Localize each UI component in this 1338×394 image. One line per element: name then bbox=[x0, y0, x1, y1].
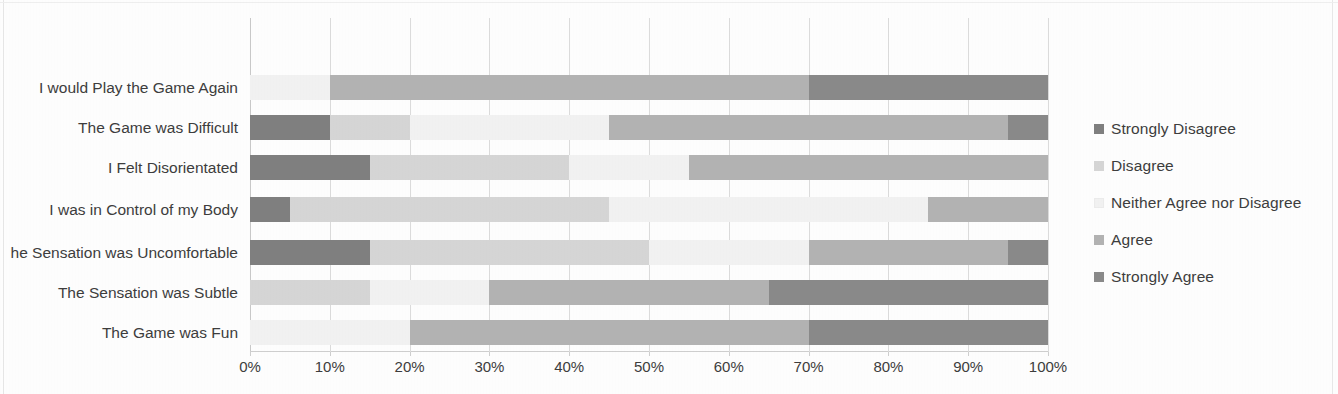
legend-swatch-icon bbox=[1094, 161, 1104, 171]
y-axis-category-label: I was in Control of my Body bbox=[49, 197, 238, 222]
bar-segment bbox=[250, 197, 290, 222]
legend-label: Strongly Disagree bbox=[1111, 120, 1236, 138]
y-axis-category-label: he Sensation was Uncomfortable bbox=[11, 240, 238, 265]
x-axis-tick-label: 50% bbox=[609, 358, 689, 375]
x-axis-tick-label: 30% bbox=[449, 358, 529, 375]
legend-label: Agree bbox=[1111, 231, 1153, 249]
gridline bbox=[1048, 18, 1049, 352]
y-axis-category-label: The Sensation was Subtle bbox=[58, 280, 238, 305]
x-axis-tick-label: 70% bbox=[769, 358, 849, 375]
legend-swatch-icon bbox=[1094, 198, 1104, 208]
bar-segment bbox=[250, 240, 370, 265]
bar-segment bbox=[250, 320, 410, 345]
bar-row bbox=[250, 280, 1048, 305]
x-axis-tick-label: 0% bbox=[210, 358, 290, 375]
legend-item[interactable]: Strongly Agree bbox=[1094, 258, 1338, 295]
tick-mark bbox=[649, 352, 650, 356]
legend-swatch-icon bbox=[1094, 124, 1104, 134]
plot-area bbox=[250, 18, 1048, 352]
legend-label: Disagree bbox=[1111, 157, 1174, 175]
bar-segment bbox=[250, 115, 330, 140]
bar-segment bbox=[609, 197, 928, 222]
bar-segment bbox=[410, 115, 610, 140]
x-axis-tick-label: 80% bbox=[848, 358, 928, 375]
tick-mark bbox=[729, 352, 730, 356]
bar-segment bbox=[809, 320, 1048, 345]
bar-segment bbox=[809, 240, 1009, 265]
bar-segment bbox=[809, 75, 1048, 100]
tick-mark bbox=[968, 352, 969, 356]
bar-segment bbox=[689, 155, 1048, 180]
legend-swatch-icon bbox=[1094, 272, 1104, 282]
tick-mark bbox=[888, 352, 889, 356]
x-axis-tick-label: 10% bbox=[290, 358, 370, 375]
tick-mark bbox=[1048, 352, 1049, 356]
x-axis-tick-label: 100% bbox=[1008, 358, 1088, 375]
bar-segment bbox=[410, 320, 809, 345]
y-axis-category-label: The Game was Difficult bbox=[78, 115, 238, 140]
tick-mark bbox=[809, 352, 810, 356]
bar-row bbox=[250, 197, 1048, 222]
bar-segment bbox=[1008, 115, 1048, 140]
bar-segment bbox=[330, 115, 410, 140]
bar-segment bbox=[569, 155, 689, 180]
x-axis-tick-label: 40% bbox=[529, 358, 609, 375]
y-axis-category-label: I would Play the Game Again bbox=[39, 75, 238, 100]
bar-segment bbox=[370, 155, 570, 180]
legend-label: Strongly Agree bbox=[1111, 268, 1214, 286]
bar-segment bbox=[250, 280, 370, 305]
bar-segment bbox=[290, 197, 609, 222]
x-axis-tick-label: 90% bbox=[928, 358, 1008, 375]
legend-item[interactable]: Disagree bbox=[1094, 147, 1338, 184]
bar-row bbox=[250, 320, 1048, 345]
bar-segment bbox=[370, 240, 649, 265]
bar-segment bbox=[250, 155, 370, 180]
bar-segment bbox=[370, 280, 490, 305]
bar-segment bbox=[250, 75, 330, 100]
bar-segment bbox=[609, 115, 1008, 140]
stacked-bar-chart: I would Play the Game AgainThe Game was … bbox=[0, 0, 1338, 394]
y-axis-category-label: I Felt Disorientated bbox=[108, 155, 238, 180]
legend-item[interactable]: Neither Agree nor Disagree bbox=[1094, 184, 1338, 221]
x-axis-tick-label: 20% bbox=[370, 358, 450, 375]
bar-row bbox=[250, 75, 1048, 100]
bar-segment bbox=[489, 280, 768, 305]
x-axis-tick-label: 60% bbox=[689, 358, 769, 375]
bar-row bbox=[250, 115, 1048, 140]
bar-segment bbox=[928, 197, 1048, 222]
bar-segment bbox=[330, 75, 809, 100]
bar-segment bbox=[769, 280, 1048, 305]
legend-label: Neither Agree nor Disagree bbox=[1111, 194, 1301, 212]
legend-swatch-icon bbox=[1094, 235, 1104, 245]
tick-mark bbox=[410, 352, 411, 356]
bar-segment bbox=[1008, 240, 1048, 265]
legend-item[interactable]: Agree bbox=[1094, 221, 1338, 258]
tick-mark bbox=[250, 352, 251, 356]
bar-segment bbox=[649, 240, 809, 265]
chart-page: I would Play the Game AgainThe Game was … bbox=[0, 0, 1338, 394]
tick-mark bbox=[330, 352, 331, 356]
chart-legend: Strongly DisagreeDisagreeNeither Agree n… bbox=[1094, 110, 1338, 295]
tick-mark bbox=[569, 352, 570, 356]
y-axis-category-labels: I would Play the Game AgainThe Game was … bbox=[0, 18, 244, 352]
y-axis-category-label: The Game was Fun bbox=[102, 320, 238, 345]
legend-item[interactable]: Strongly Disagree bbox=[1094, 110, 1338, 147]
bar-row bbox=[250, 240, 1048, 265]
bar-row bbox=[250, 155, 1048, 180]
tick-mark bbox=[489, 352, 490, 356]
